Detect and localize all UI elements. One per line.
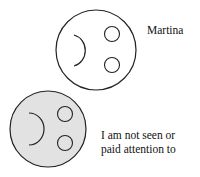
martina-label: Martina <box>147 23 183 37</box>
unseen-label: I am not seen or paid attention to <box>101 128 176 156</box>
unseen-label-line1: I am not seen or <box>101 128 176 142</box>
unseen-label-line2: paid attention to <box>101 142 176 156</box>
unseen-face-icon <box>10 91 86 167</box>
martina-face-icon <box>56 10 136 90</box>
